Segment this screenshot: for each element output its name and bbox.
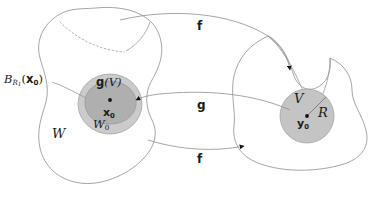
label-x-sub: 0 [110, 112, 115, 120]
label-ball-paren-close: ) [38, 72, 43, 86]
label-domain-W: W [52, 127, 65, 140]
pointer-line-ball-left [52, 82, 86, 98]
arrow-f-bottom [148, 140, 244, 149]
region-W-interior-fold [126, 22, 150, 51]
label-map-f-top: f [197, 20, 202, 32]
label-W0-letter: W [93, 117, 105, 131]
label-ball-BR1-x0: BR1(x0) [4, 74, 43, 88]
label-map-f-bottom: f [197, 153, 202, 165]
label-gV-arg: (V) [104, 75, 121, 89]
label-y-sub: 0 [304, 123, 309, 131]
label-map-g-middle: g [197, 99, 206, 111]
arrow-f-top [120, 13, 290, 70]
label-point-y0: y0 [297, 118, 309, 131]
point-x0 [108, 98, 112, 102]
label-set-W0: W0 [93, 119, 109, 131]
label-radius-R: R [318, 106, 328, 119]
math-diagram-canvas [0, 0, 373, 197]
arrow-g-middle [136, 92, 290, 110]
label-set-V: V [294, 92, 303, 105]
label-W0-sub: 0 [105, 123, 110, 132]
label-image-gV: g(V) [96, 77, 122, 89]
label-g-bold: g [96, 75, 104, 89]
region-W-interior-dashed-arc [60, 22, 124, 52]
